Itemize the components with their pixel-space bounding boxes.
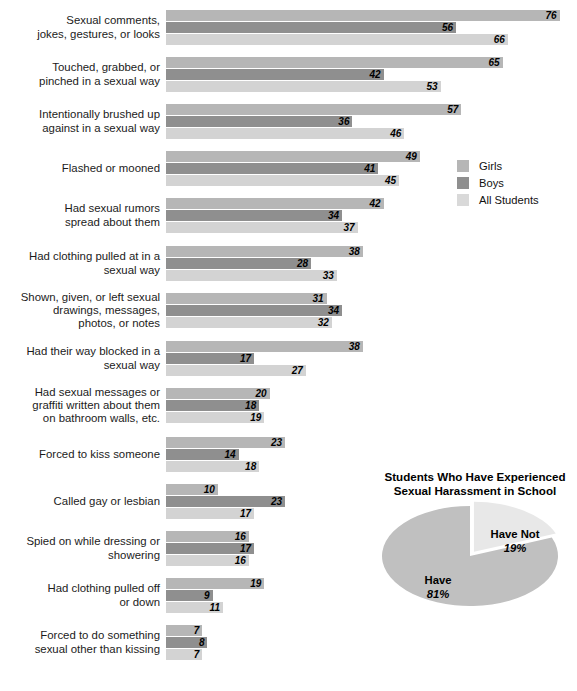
bar-value-boys: 42 — [365, 69, 381, 80]
legend-swatch-icon — [457, 160, 469, 172]
bar-value-girls: 38 — [344, 341, 360, 352]
bar-value-girls: 38 — [344, 246, 360, 257]
category-label-line: Had sexual rumors — [0, 202, 160, 215]
category-label-line: jokes, gestures, or looks — [0, 28, 160, 41]
category-label-line: against in a sexual way — [0, 122, 160, 135]
category-label: Sexual comments,jokes, gestures, or look… — [0, 14, 160, 40]
bar-rect-all — [166, 365, 306, 376]
bar-value-all: 11 — [204, 602, 220, 613]
bar-value-girls: 16 — [230, 531, 246, 542]
category-label-line: or down — [0, 596, 160, 609]
pie-label-have: Have 81% — [401, 574, 475, 601]
category-label-line: Had sexual messages or — [0, 386, 160, 399]
bar-rect-all — [166, 222, 358, 233]
category-label: Forced to do somethingsexual other than … — [0, 629, 160, 655]
category-label: Had sexual messages orgraffiti written a… — [0, 386, 160, 426]
category-label-line: Called gay or lesbian — [0, 495, 160, 508]
pie-label-have-name: Have — [424, 574, 451, 586]
bar-value-boys: 8 — [188, 637, 204, 648]
pie-label-have-not: Have Not 19% — [473, 528, 557, 555]
category-label-line: sexual way — [0, 359, 160, 372]
category-label-line: photos, or notes — [0, 317, 160, 330]
category-label-line: Forced to do something — [0, 629, 160, 642]
pie-chart-title: Students Who Have ExperiencedSexual Hara… — [373, 470, 577, 497]
bar-value-all: 18 — [240, 461, 256, 472]
bar-value-girls: 57 — [442, 104, 458, 115]
bar-value-all: 16 — [230, 555, 246, 566]
bar-rect-all — [166, 128, 404, 139]
bar-rect-boys — [166, 116, 352, 127]
bar-rect-boys — [166, 210, 342, 221]
bar-value-boys: 36 — [333, 116, 349, 127]
bar-rect-boys — [166, 305, 342, 316]
bar-value-girls: 31 — [308, 293, 324, 304]
bar-group: Forced to do somethingsexual other than … — [0, 625, 577, 665]
pie-label-have-not-pct: 19% — [504, 542, 527, 554]
bar-value-all: 17 — [235, 508, 251, 519]
bar-value-boys: 17 — [235, 543, 251, 554]
category-label-line: Flashed or mooned — [0, 162, 160, 175]
bar-value-girls: 23 — [266, 437, 282, 448]
category-label-line: sexual way — [0, 264, 160, 277]
pie-title-line: Sexual Harassment in School — [373, 484, 577, 498]
legend-label: All Students — [479, 193, 539, 207]
bar-rect-girls — [166, 341, 363, 352]
category-label-line: drawings, messages, — [0, 304, 160, 317]
bar-value-all: 46 — [385, 128, 401, 139]
bar-value-boys: 41 — [359, 163, 375, 174]
category-label: Forced to kiss someone — [0, 448, 160, 461]
bar-value-boys: 23 — [266, 496, 282, 507]
bar-rect-girls — [166, 104, 461, 115]
category-label-line: sexual other than kissing — [0, 643, 160, 656]
bar-value-girls: 20 — [251, 388, 267, 399]
category-label-line: Forced to kiss someone — [0, 448, 160, 461]
bar-rect-all — [166, 317, 332, 328]
category-label: Spied on while dressing orshowering — [0, 535, 160, 561]
pie-chart-block: Students Who Have ExperiencedSexual Hara… — [373, 470, 577, 630]
category-label: Called gay or lesbian — [0, 495, 160, 508]
pie-title-line: Students Who Have Experienced — [373, 470, 577, 484]
category-label-line: Sexual comments, — [0, 14, 160, 27]
legend-swatch-icon — [457, 177, 469, 189]
category-label-line: showering — [0, 549, 160, 562]
bar-group: Touched, grabbed, orpinched in a sexual … — [0, 57, 577, 97]
legend-swatch-icon — [457, 194, 469, 206]
bar-rect-all — [166, 34, 508, 45]
category-label: Had sexual rumorsspread about them — [0, 202, 160, 228]
category-label: Had clothing pulled at in asexual way — [0, 250, 160, 276]
bar-group: Shown, given, or left sexualdrawings, me… — [0, 293, 577, 333]
bar-rect-girls — [166, 57, 503, 68]
category-label-line: pinched in a sexual way — [0, 75, 160, 88]
bar-value-boys: 17 — [235, 353, 251, 364]
category-label-line: Touched, grabbed, or — [0, 61, 160, 74]
bar-group: Had clothing pulled at in asexual way382… — [0, 246, 577, 286]
category-label-line: Had clothing pulled at in a — [0, 250, 160, 263]
category-label: Flashed or mooned — [0, 162, 160, 175]
bar-group: Intentionally brushed upagainst in a sex… — [0, 104, 577, 144]
category-label-line: Had clothing pulled off — [0, 582, 160, 595]
bar-value-all: 45 — [380, 175, 396, 186]
bar-value-boys: 9 — [194, 590, 210, 601]
category-label: Shown, given, or left sexualdrawings, me… — [0, 291, 160, 331]
category-label-line: Had their way blocked in a — [0, 345, 160, 358]
bar-rect-girls — [166, 293, 327, 304]
bar-value-girls: 49 — [401, 151, 417, 162]
sexual-harassment-chart: Sexual comments,jokes, gestures, or look… — [0, 0, 577, 691]
bar-value-boys: 18 — [240, 400, 256, 411]
category-label-line: Spied on while dressing or — [0, 535, 160, 548]
bar-rect-all — [166, 175, 399, 186]
bar-rect-boys — [166, 69, 384, 80]
category-label: Had their way blocked in asexual way — [0, 345, 160, 371]
bar-value-all: 33 — [318, 270, 334, 281]
bar-rect-girls — [166, 10, 560, 21]
category-label-line: spread about them — [0, 216, 160, 229]
bar-rect-girls — [166, 151, 420, 162]
legend-label: Boys — [479, 176, 504, 190]
bar-rect-boys — [166, 22, 456, 33]
category-label: Had clothing pulled offor down — [0, 582, 160, 608]
bar-rect-girls — [166, 246, 363, 257]
bar-value-girls: 76 — [541, 10, 557, 21]
bar-value-boys: 34 — [323, 305, 339, 316]
bar-value-all: 37 — [339, 222, 355, 233]
legend-label: Girls — [479, 159, 502, 173]
